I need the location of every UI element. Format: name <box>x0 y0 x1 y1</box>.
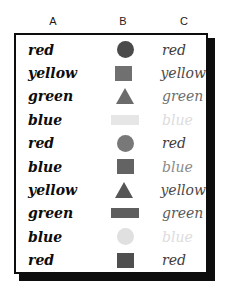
triangle-icon <box>115 182 133 198</box>
word-cell-c: red <box>154 43 206 57</box>
stimulus-row: blueblue <box>16 108 206 131</box>
column-header-c: C <box>154 15 214 27</box>
stimulus-row: redred <box>16 38 206 61</box>
word-cell-a: green <box>16 206 96 220</box>
stimulus-row: greengreen <box>16 85 206 108</box>
word-cell-a: blue <box>16 230 96 244</box>
rect-icon <box>111 115 139 125</box>
word-cell-a: red <box>16 253 96 267</box>
rect-icon <box>111 208 139 218</box>
shape-cell-b <box>96 228 154 245</box>
word-cell-c: red <box>154 136 206 150</box>
shape-cell-b <box>96 208 154 218</box>
shape-cell-b <box>96 253 154 268</box>
triangle-icon <box>116 88 134 104</box>
shape-cell-b <box>95 66 152 81</box>
stimulus-panel: redredyellowyellowgreengreenblueblueredr… <box>14 33 208 274</box>
stimulus-row: redred <box>16 132 206 155</box>
word-cell-a: yellow <box>16 66 95 80</box>
square-icon <box>117 159 134 174</box>
word-cell-c: yellow <box>152 183 206 197</box>
square-icon <box>117 253 134 268</box>
word-cell-a: blue <box>16 160 96 174</box>
word-cell-c: green <box>154 89 206 103</box>
shape-cell-b <box>95 182 152 198</box>
word-cell-a: yellow <box>16 183 95 197</box>
stimulus-row: blueblue <box>16 155 206 178</box>
column-headers: A B C <box>14 11 214 31</box>
column-header-b: B <box>92 15 154 27</box>
word-cell-c: blue <box>154 230 206 244</box>
word-cell-a: blue <box>16 113 96 127</box>
stimulus-row: yellowyellow <box>16 178 206 201</box>
stimulus-row: redred <box>16 249 206 272</box>
circle-icon <box>117 41 134 58</box>
shape-cell-b <box>96 88 154 104</box>
shape-cell-b <box>96 135 154 152</box>
column-header-a: A <box>14 15 92 27</box>
stimulus-row-list: redredyellowyellowgreengreenblueblueredr… <box>16 38 206 272</box>
word-cell-c: yellow <box>152 66 206 80</box>
word-cell-a: red <box>16 43 96 57</box>
stimulus-row: greengreen <box>16 202 206 225</box>
shape-cell-b <box>96 159 154 174</box>
shape-cell-b <box>96 115 154 125</box>
word-cell-a: red <box>16 136 96 150</box>
word-cell-a: green <box>16 89 96 103</box>
circle-icon <box>117 228 134 245</box>
circle-icon <box>117 135 134 152</box>
shape-cell-b <box>96 41 154 58</box>
word-cell-c: green <box>154 206 206 220</box>
stroop-test-figure: A B C redredyellowyellowgreengreenbluebl… <box>0 0 242 293</box>
word-cell-c: red <box>154 253 206 267</box>
word-cell-c: blue <box>154 160 206 174</box>
stimulus-row: yellowyellow <box>16 61 206 84</box>
square-icon <box>115 66 132 81</box>
word-cell-c: blue <box>154 113 206 127</box>
stimulus-row: blueblue <box>16 225 206 248</box>
